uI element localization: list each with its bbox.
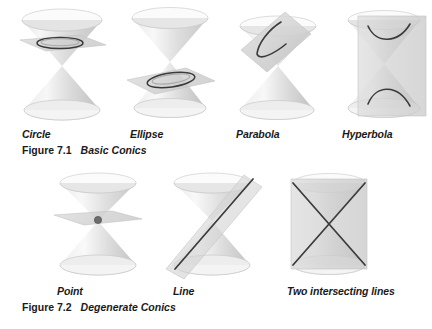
conic-diagram-ellipse [122, 4, 218, 124]
hyperbola-cone-svg [336, 4, 432, 124]
label-two-intersecting-lines: Two intersecting lines [287, 285, 395, 297]
conic-curve-point [94, 216, 101, 223]
line-cone-svg [158, 169, 268, 281]
conic-diagram-two-intersecting-lines [281, 169, 377, 281]
figure-7-1-group: Circle Ellipse Parabola Hyperbola Figure… [0, 0, 432, 164]
circle-cone-svg [14, 4, 110, 124]
label-point: Point [57, 285, 83, 297]
lower-nappe [240, 66, 314, 120]
figure-7-2-group: Point Line Two intersecting lines Figure… [0, 165, 432, 329]
figure-7-2-caption-line: Figure 7.2Degenerate Conics [22, 301, 176, 313]
upper-nappe [132, 8, 208, 63]
figure-7-1-number: Figure 7.1 [22, 144, 72, 156]
label-circle: Circle [22, 128, 51, 140]
figure-7-2-title: Degenerate Conics [81, 301, 176, 313]
ellipse-cone-svg [122, 4, 218, 124]
conic-diagram-parabola [228, 4, 324, 124]
conic-diagram-hyperbola [336, 4, 432, 124]
point-cone-svg [50, 169, 146, 281]
conic-diagram-point [50, 169, 146, 281]
figure-page: Circle Ellipse Parabola Hyperbola Figure… [0, 0, 432, 329]
conic-diagram-line [158, 169, 268, 281]
lower-nappe [60, 221, 136, 275]
label-parabola: Parabola [236, 128, 280, 140]
figure-7-2-number: Figure 7.2 [22, 301, 72, 313]
lower-nappe [24, 66, 100, 120]
figure-7-1-title: Basic Conics [81, 144, 147, 156]
label-ellipse: Ellipse [130, 128, 163, 140]
label-hyperbola: Hyperbola [342, 128, 392, 140]
cutting-plane [127, 68, 215, 94]
label-line: Line [173, 285, 194, 297]
parabola-cone-svg [228, 4, 324, 124]
two-intersecting-lines-cone-svg [281, 169, 377, 281]
cutting-plane [358, 16, 426, 116]
conic-diagram-circle [14, 4, 110, 124]
figure-7-1-caption-line: Figure 7.1Basic Conics [22, 144, 147, 156]
